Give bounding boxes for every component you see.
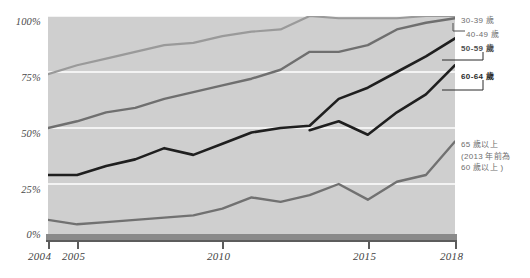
legend-label-30-39: 30-39 歲 [461, 14, 494, 25]
x-tick-2015 [368, 240, 370, 249]
legend-connector-40-49 [452, 22, 466, 34]
legend-connector-60-64 [441, 78, 485, 92]
x-tick-label-2005: 2005 [62, 250, 85, 262]
x-tick-label-2018: 2018 [440, 250, 463, 262]
y-tick-label-100: 100% [16, 16, 41, 27]
x-tick-label-2015: 2015 [353, 250, 376, 262]
y-axis: 100% 75% 50% 25% 0% [0, 0, 44, 278]
plot-lines [48, 16, 455, 240]
series-line-4 [48, 141, 455, 224]
x-tick-2005 [77, 240, 79, 249]
legend-label-65-plus: 65 歲以上 (2013 年前為 60 歲以上 ) [461, 139, 530, 174]
legend-connector-50-59 [441, 50, 485, 62]
y-tick-label-75: 75% [21, 72, 41, 83]
series-line-3 [310, 65, 455, 134]
legend-65-plus-line1: 65 歲以上 [461, 139, 530, 151]
x-tick-2018 [455, 240, 457, 249]
y-tick-label-25: 25% [21, 184, 41, 195]
series-line-0 [48, 16, 455, 74]
y-tick-label-0: 0% [27, 229, 41, 240]
x-tick-label-2004: 2004 [28, 250, 51, 262]
y-tick-label-50: 50% [21, 128, 41, 139]
line-chart: 100% 75% 50% 25% 0% 2004 2005 2010 2015 … [0, 0, 530, 278]
x-tick-label-2010: 2010 [207, 250, 230, 262]
legend-label-40-49: 40-49 歲 [466, 28, 499, 39]
legend-65-plus-line3: 60 歲以上 ) [461, 162, 530, 174]
x-axis-line [46, 240, 457, 242]
legend-65-plus-line2: (2013 年前為 [461, 151, 530, 163]
x-tick-2004 [48, 240, 50, 249]
x-tick-2010 [222, 240, 224, 249]
plot-area [48, 16, 455, 240]
